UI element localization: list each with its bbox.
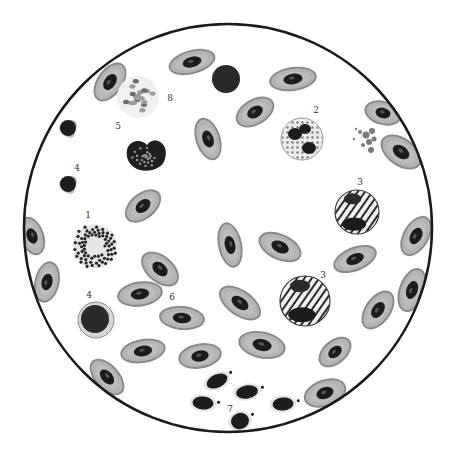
figure-label-3: 3 — [320, 270, 326, 280]
figure-label-7: 7 — [227, 404, 233, 414]
erythrocyte — [230, 90, 279, 134]
thrombocyte — [232, 381, 266, 403]
erythrocyte — [14, 213, 50, 259]
platelet-cluster — [353, 128, 377, 153]
erythrocyte — [236, 327, 289, 363]
erythrocyte — [355, 285, 402, 336]
cell-4-small — [59, 120, 77, 138]
thrombocyte — [201, 366, 237, 395]
cell-4-monocyte — [78, 302, 114, 338]
erythrocyte — [374, 127, 428, 176]
cell-3-heterophil — [335, 190, 379, 234]
erythrocyte — [329, 239, 381, 278]
cell-5-heart-shaped — [127, 141, 166, 171]
microscope-field-figure: 8524314637 — [0, 0, 454, 453]
figure-label-2: 2 — [313, 105, 319, 115]
erythrocyte — [118, 335, 167, 367]
erythrocyte — [362, 96, 405, 129]
erythrocyte — [119, 183, 168, 230]
thrombocyte — [189, 393, 221, 413]
cell-3-heterophil — [280, 276, 330, 326]
cell-layer — [14, 44, 438, 434]
figure-label-8: 8 — [167, 93, 173, 103]
erythrocyte — [254, 225, 307, 268]
figure-label-4: 4 — [86, 290, 92, 300]
erythrocyte — [166, 44, 219, 80]
erythrocyte — [158, 304, 206, 332]
cell-8-pale-granular — [117, 76, 159, 118]
cell-1-granulocyte — [73, 224, 117, 268]
cell-4-small — [59, 176, 77, 194]
erythrocyte — [313, 331, 358, 374]
figure-label-6: 6 — [169, 292, 175, 302]
figure-label-4: 4 — [74, 163, 80, 173]
figure-label-5: 5 — [115, 121, 121, 131]
erythrocyte — [213, 279, 267, 328]
figure-label-3: 3 — [357, 177, 363, 187]
erythrocyte — [176, 340, 224, 372]
figure-label-1: 1 — [85, 210, 91, 220]
lymphocyte — [212, 65, 240, 93]
erythrocyte — [213, 220, 246, 270]
cell-2-granulocyte — [281, 118, 323, 160]
erythrocyte — [189, 114, 226, 164]
erythrocyte — [268, 64, 319, 94]
thrombocyte — [269, 394, 301, 414]
